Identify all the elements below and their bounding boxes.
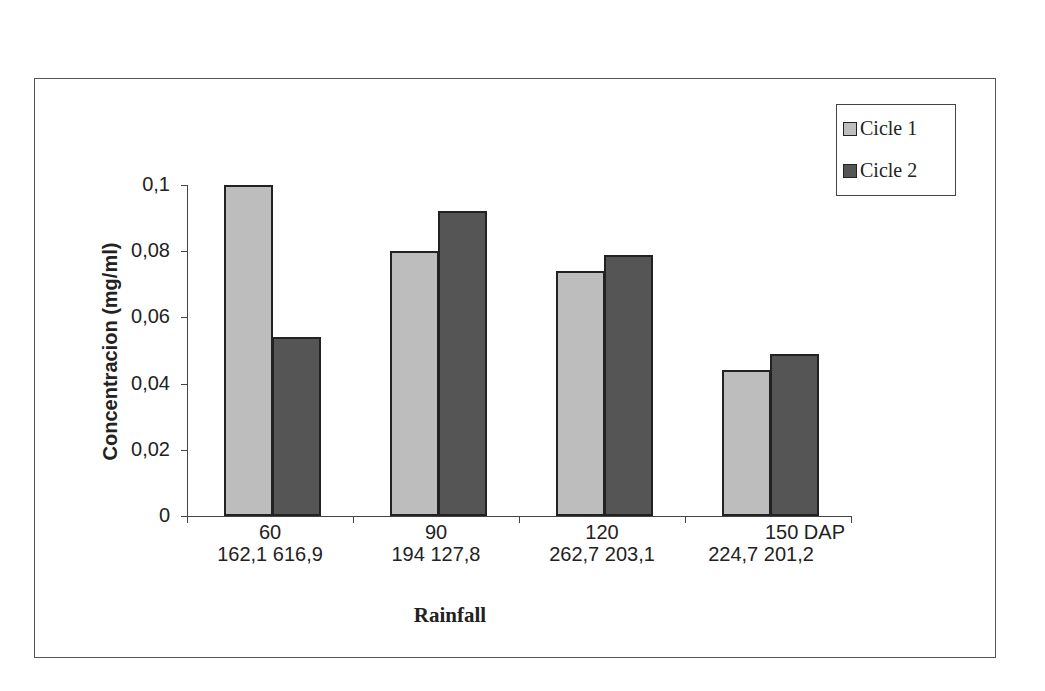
bar-cicle-2-60: [272, 337, 321, 516]
y-tick-label: 0,1: [100, 173, 170, 196]
legend-item-cicle-1: Cicle 1: [843, 117, 917, 140]
y-tick-label: 0,08: [100, 239, 170, 262]
x-tick: [851, 516, 852, 523]
legend-label: Cicle 2: [860, 159, 917, 182]
x-axis-title: Rainfall: [350, 603, 550, 628]
y-tick-label: 0,04: [100, 372, 170, 395]
legend: Cicle 1 Cicle 2: [836, 104, 956, 196]
bar-cicle-2-90: [438, 211, 487, 516]
bar-cicle-1-60: [224, 185, 273, 516]
x-category-label: 120262,7 203,1: [519, 521, 685, 565]
y-tick-label: 0: [100, 504, 170, 527]
y-tick-label: 0,02: [100, 438, 170, 461]
x-category-label: 60162,1 616,9: [187, 521, 353, 565]
bar-cicle-2-150: [770, 354, 819, 516]
legend-swatch-cicle-1: [843, 122, 857, 136]
bar-cicle-1-150: [722, 370, 771, 516]
legend-swatch-cicle-2: [843, 164, 857, 178]
y-tick-label: 0,06: [100, 305, 170, 328]
bar-cicle-2-120: [604, 255, 653, 516]
legend-item-cicle-2: Cicle 2: [843, 159, 917, 182]
x-category-label: 150 DAP224,7 201,2: [677, 521, 845, 565]
y-axis: [187, 185, 188, 516]
x-category-label: 90194 127,8: [353, 521, 519, 565]
bar-cicle-1-120: [556, 271, 605, 516]
legend-label: Cicle 1: [860, 117, 917, 140]
bar-cicle-1-90: [390, 251, 439, 516]
